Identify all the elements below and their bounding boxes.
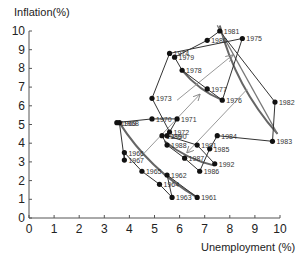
data-point [159, 133, 164, 138]
data-point [122, 150, 127, 155]
y-tick-label: 5 [18, 118, 25, 132]
y-tick-label: 10 [12, 24, 26, 38]
data-point [197, 169, 202, 174]
year-label: 1981 [224, 28, 240, 35]
data-point [180, 68, 185, 73]
data-point [157, 182, 162, 187]
y-tick-label: 2 [18, 174, 25, 188]
data-point [220, 98, 225, 103]
data-point [169, 195, 174, 200]
year-label: 1971 [181, 116, 197, 123]
data-point [195, 195, 200, 200]
year-label: 1973 [156, 95, 172, 102]
year-label: 1978 [186, 67, 202, 74]
data-point [167, 51, 172, 56]
x-tick-label: 0 [26, 222, 33, 236]
year-label: 1988 [171, 142, 187, 149]
x-tick-label: 1 [51, 222, 58, 236]
year-label: 1992 [219, 161, 235, 168]
year-label: 1990 [171, 133, 187, 140]
y-tick-label: 1 [18, 192, 25, 206]
year-label: 1986 [204, 168, 220, 175]
y-tick-label: 9 [18, 43, 25, 57]
x-tick-label: 5 [151, 222, 158, 236]
data-point [114, 120, 119, 125]
year-label: 1982 [279, 99, 295, 106]
data-point [205, 38, 210, 43]
year-label: 1983 [276, 138, 292, 145]
data-point [139, 169, 144, 174]
y-tick-label: 4 [18, 136, 25, 150]
year-label: 1967 [128, 157, 144, 164]
data-point [122, 157, 127, 162]
x-tick-label: 7 [201, 222, 208, 236]
year-label: 1970 [156, 116, 172, 123]
year-label: 1979 [179, 54, 195, 61]
year-label: 1980 [211, 37, 227, 44]
x-tick-label: 10 [273, 222, 287, 236]
data-point [217, 28, 222, 33]
x-tick-label: 9 [252, 222, 259, 236]
x-tick-label: 6 [176, 222, 183, 236]
y-tick-label: 3 [18, 155, 25, 169]
year-label: 1987 [189, 155, 205, 162]
x-tick-label: 3 [101, 222, 108, 236]
year-label: 1977 [211, 86, 227, 93]
year-label: 1964 [164, 181, 180, 188]
data-point [215, 133, 220, 138]
x-tick-label: 8 [226, 222, 233, 236]
data-point [164, 142, 169, 147]
data-point [270, 139, 275, 144]
year-label: 1963 [176, 194, 192, 201]
data-point [240, 36, 245, 41]
data-point [164, 172, 169, 177]
year-label: 1984 [221, 133, 237, 140]
year-label: 1991 [201, 142, 217, 149]
y-tick-label: 7 [18, 80, 25, 94]
x-tick-label: 4 [126, 222, 133, 236]
year-label: 1976 [226, 97, 242, 104]
data-point [149, 96, 154, 101]
data-point [172, 55, 177, 60]
phillips-curve-chart: Inflation(%) Unemployment (%) 0123456789… [0, 0, 305, 264]
year-label: 1961 [201, 194, 217, 201]
plot-area: 0123456789100123456789101961196219631964… [0, 0, 305, 264]
year-label: 1969 [121, 120, 137, 127]
year-label: 1975 [246, 35, 262, 42]
year-label: 1965 [146, 168, 162, 175]
year-label: 1962 [171, 172, 187, 179]
y-tick-label: 0 [18, 211, 25, 225]
data-point [149, 116, 154, 121]
y-tick-label: 8 [18, 61, 25, 75]
x-tick-label: 2 [76, 222, 83, 236]
data-point [272, 99, 277, 104]
data-point [212, 161, 217, 166]
data-point [182, 156, 187, 161]
data-point [164, 133, 169, 138]
data-point [205, 86, 210, 91]
data-point [174, 116, 179, 121]
data-point [195, 142, 200, 147]
year-label: 1966 [128, 150, 144, 157]
y-tick-label: 6 [18, 99, 25, 113]
